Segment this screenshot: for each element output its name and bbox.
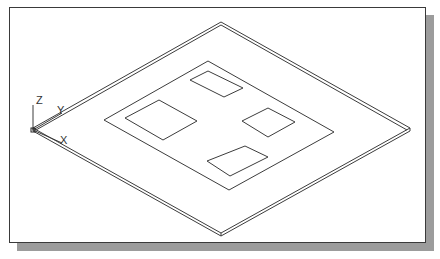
plate-top-face <box>33 22 410 233</box>
ucs-y-label: Y <box>57 104 65 116</box>
isometric-drawing: Z Y X <box>0 0 440 259</box>
opening-left <box>125 100 197 140</box>
opening-right <box>242 108 295 137</box>
opening-bottom <box>207 146 268 176</box>
ucs-x-label: X <box>60 134 68 146</box>
plate-thickness-edge <box>33 131 410 236</box>
ucs-x-axis <box>33 130 62 143</box>
ucs-z-label: Z <box>36 94 43 106</box>
ucs-icon: Z Y X <box>31 94 68 146</box>
opening-top <box>190 71 243 97</box>
